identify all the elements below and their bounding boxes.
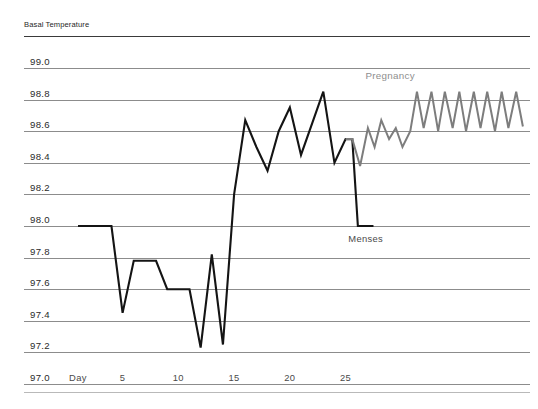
x-tick-label: 5: [120, 372, 126, 383]
chart-plot-area: 99.098.898.698.498.298.097.897.697.497.2…: [0, 0, 538, 409]
data-series: [78, 92, 523, 348]
x-tick-label: Day: [69, 372, 87, 383]
basal-temperature-chart: 99.098.898.698.498.298.097.897.697.497.2…: [0, 0, 538, 409]
y-tick-label: 97.8: [30, 246, 50, 257]
x-tick-label: 10: [173, 372, 184, 383]
series-line-pregnancy: [346, 92, 523, 166]
y-tick-label: 97.6: [30, 277, 50, 288]
x-axis-tick-labels: Day510152025: [69, 372, 351, 383]
y-tick-label: 98.4: [30, 151, 50, 162]
y-tick-label: 99.0: [30, 56, 50, 67]
y-tick-label: 98.0: [30, 214, 50, 225]
annotation-menses: Menses: [348, 233, 383, 244]
gridlines: [24, 37, 530, 393]
y-axis-tick-labels: 99.098.898.698.498.298.097.897.697.497.2…: [30, 56, 50, 383]
x-tick-label: 20: [284, 372, 295, 383]
x-tick-label: 25: [340, 372, 351, 383]
y-tick-label: 98.8: [30, 88, 50, 99]
x-tick-label: 15: [228, 372, 239, 383]
series-line-menses: [78, 92, 373, 348]
y-tick-label: 97.4: [30, 309, 50, 320]
y-tick-label: 98.6: [30, 119, 50, 130]
y-tick-label: 97.2: [30, 340, 50, 351]
y-tick-label: 98.2: [30, 182, 50, 193]
annotation-pregnancy: Pregnancy: [365, 70, 415, 81]
y-tick-label: 97.0: [30, 372, 50, 383]
chart-axis-title: Basal Temperature: [24, 20, 89, 29]
